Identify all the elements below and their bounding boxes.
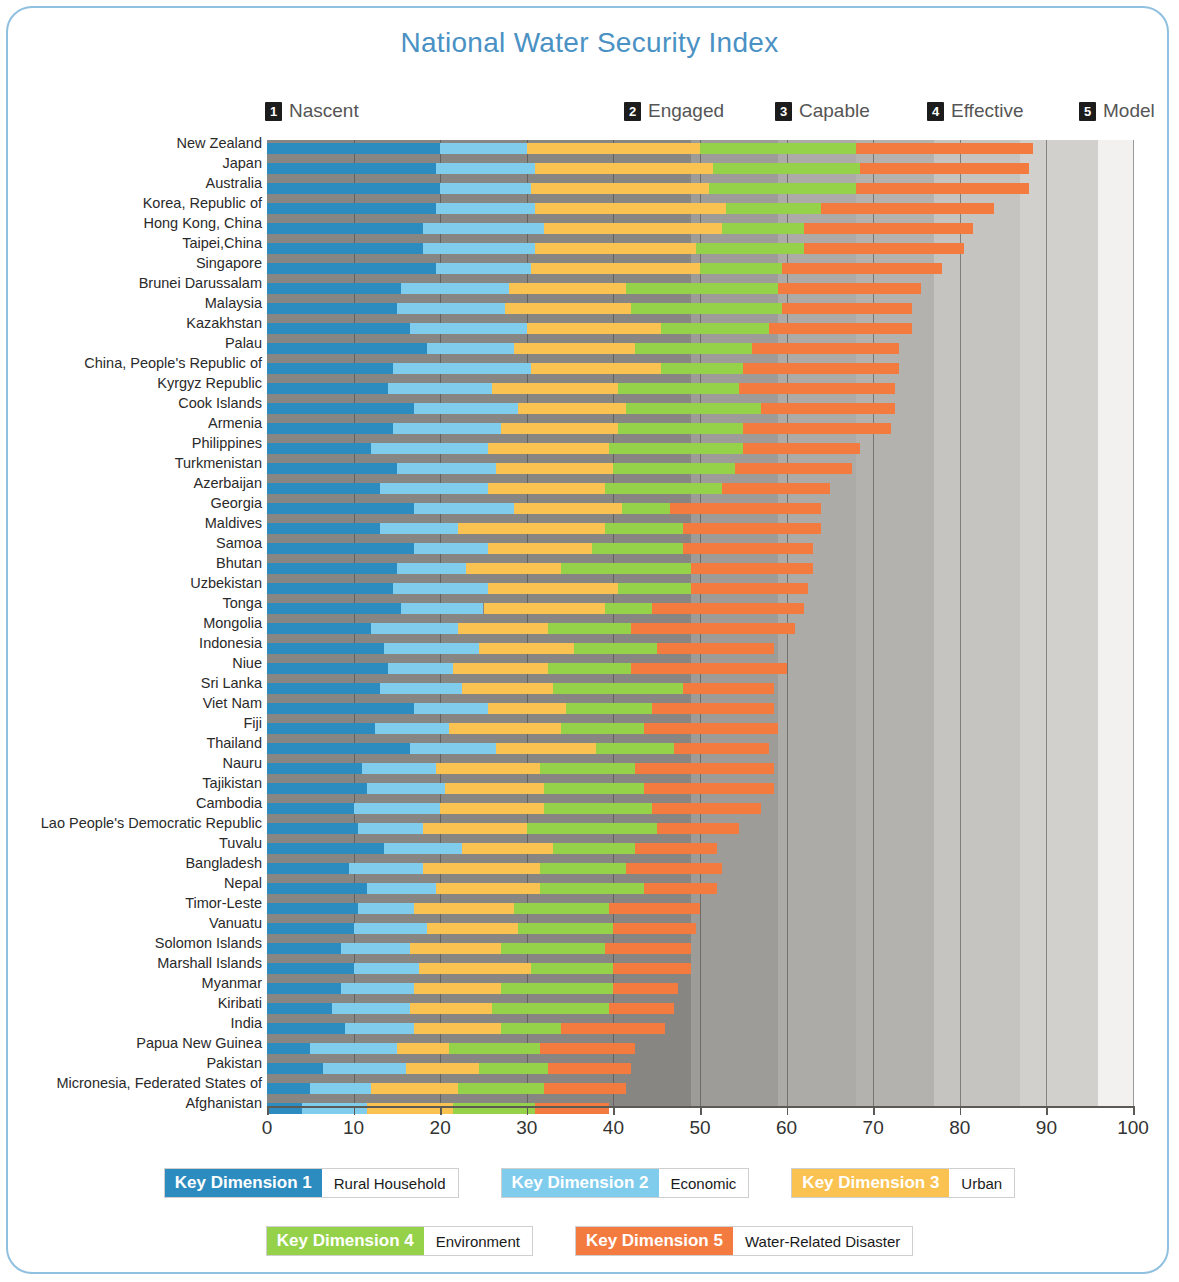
- country-label: Myanmar: [0, 975, 262, 991]
- axis-tick-label: 70: [863, 1117, 884, 1139]
- bar-segment-kd5: [804, 223, 973, 234]
- bar-segment-kd5: [544, 1083, 626, 1094]
- bar-segment-kd4: [605, 483, 722, 494]
- bar-segment-kd4: [700, 263, 782, 274]
- bar-row: [267, 623, 1133, 634]
- bar-row: [267, 483, 1133, 494]
- country-label: Tajikistan: [0, 775, 262, 791]
- bar-row: [267, 903, 1133, 914]
- country-label: Mongolia: [0, 615, 262, 631]
- country-label: Cook Islands: [0, 395, 262, 411]
- bar-segment-kd1: [267, 943, 341, 954]
- bar-segment-kd2: [410, 323, 527, 334]
- bar-row: [267, 963, 1133, 974]
- legend-item-kd4[interactable]: Key Dimension 4Environment: [266, 1226, 533, 1256]
- bar-segment-kd4: [574, 643, 656, 654]
- bar-segment-kd3: [509, 283, 626, 294]
- legend-dimension-label: Key Dimension 2: [502, 1169, 659, 1197]
- bar-segment-kd2: [423, 243, 536, 254]
- bar-segment-kd1: [267, 503, 414, 514]
- bar-row: [267, 683, 1133, 694]
- legend-item-kd2[interactable]: Key Dimension 2Economic: [501, 1168, 750, 1198]
- country-label: Azerbaijan: [0, 475, 262, 491]
- bar-segment-kd2: [367, 783, 445, 794]
- bar-segment-kd4: [501, 1023, 562, 1034]
- axis-tick-90: [1046, 1106, 1048, 1115]
- bar-segment-kd3: [488, 483, 605, 494]
- axis-tick-100: [1133, 1106, 1135, 1115]
- country-label: Philippines: [0, 435, 262, 451]
- bar-segment-kd4: [540, 863, 627, 874]
- axis-tick-20: [440, 1106, 442, 1115]
- bar-segment-kd1: [267, 883, 367, 894]
- axis-tick-0: [267, 1106, 269, 1115]
- bar-segment-kd1: [267, 963, 354, 974]
- bar-segment-kd3: [466, 563, 561, 574]
- bar-segment-kd5: [743, 443, 860, 454]
- bar-segment-kd1: [267, 263, 436, 274]
- bar-segment-kd2: [401, 283, 509, 294]
- bar-segment-kd3: [488, 703, 566, 714]
- bar-segment-kd3: [484, 603, 605, 614]
- bar-segment-kd1: [267, 543, 414, 554]
- level-marker-1: 1Nascent: [265, 100, 359, 122]
- bar-segment-kd3: [436, 763, 540, 774]
- bar-segment-kd2: [397, 563, 466, 574]
- bar-segment-kd4: [548, 623, 630, 634]
- bar-segment-kd3: [449, 723, 562, 734]
- bar-segment-kd5: [856, 143, 1034, 154]
- bar-segment-kd5: [548, 1063, 630, 1074]
- bar-segment-kd4: [605, 603, 653, 614]
- bar-segment-kd2: [380, 683, 462, 694]
- bar-segment-kd4: [527, 823, 657, 834]
- axis-tick-label: 0: [262, 1117, 273, 1139]
- bar-row: [267, 1023, 1133, 1034]
- bar-row: [267, 983, 1133, 994]
- bar-segment-kd4: [726, 203, 821, 214]
- bar-segment-kd4: [458, 1083, 545, 1094]
- legend-item-kd3[interactable]: Key Dimension 3Urban: [791, 1168, 1015, 1198]
- bar-segment-kd2: [341, 943, 410, 954]
- legend-dimension-label: Key Dimension 1: [165, 1169, 322, 1197]
- country-label: Kiribati: [0, 995, 262, 1011]
- bar-segment-kd4: [553, 843, 635, 854]
- bar-segment-kd2: [323, 1063, 405, 1074]
- bar-row: [267, 183, 1133, 194]
- axis-tick-10: [354, 1106, 356, 1115]
- bar-segment-kd1: [267, 683, 380, 694]
- bar-segment-kd5: [752, 343, 899, 354]
- country-label: Vanuatu: [0, 915, 262, 931]
- axis-tick-label: 60: [776, 1117, 797, 1139]
- level-label: Model: [1103, 100, 1155, 122]
- bar-segment-kd5: [683, 523, 822, 534]
- country-label: Pakistan: [0, 1055, 262, 1071]
- bar-segment-kd5: [691, 583, 808, 594]
- bar-segment-kd1: [267, 483, 380, 494]
- bar-segment-kd3: [505, 303, 631, 314]
- bar-segment-kd5: [540, 1043, 635, 1054]
- bar-segment-kd1: [267, 143, 440, 154]
- bar-segment-kd3: [458, 623, 549, 634]
- bar-segment-kd1: [267, 183, 440, 194]
- bar-segment-kd1: [267, 463, 397, 474]
- bar-segment-kd1: [267, 663, 388, 674]
- bar-segment-kd2: [423, 223, 544, 234]
- axis-tick-60: [787, 1106, 789, 1115]
- bar-segment-kd5: [652, 603, 804, 614]
- bar-row: [267, 343, 1133, 354]
- bar-segment-kd1: [267, 1083, 310, 1094]
- country-label: Japan: [0, 155, 262, 171]
- axis-tick-label: 40: [603, 1117, 624, 1139]
- bar-segment-kd2: [393, 583, 488, 594]
- bar-segment-kd1: [267, 763, 362, 774]
- bar-segment-kd3: [462, 843, 553, 854]
- legend-item-kd5[interactable]: Key Dimension 5Water-Related Disaster: [575, 1226, 913, 1256]
- bar-segment-kd1: [267, 363, 393, 374]
- level-marker-5: 5Model: [1079, 100, 1155, 122]
- bar-segment-kd5: [856, 183, 1029, 194]
- bar-segment-kd1: [267, 323, 410, 334]
- bar-segment-kd5: [609, 903, 700, 914]
- bar-segment-kd2: [410, 743, 497, 754]
- legend-item-kd1[interactable]: Key Dimension 1Rural Household: [164, 1168, 459, 1198]
- bar-segment-kd5: [743, 363, 899, 374]
